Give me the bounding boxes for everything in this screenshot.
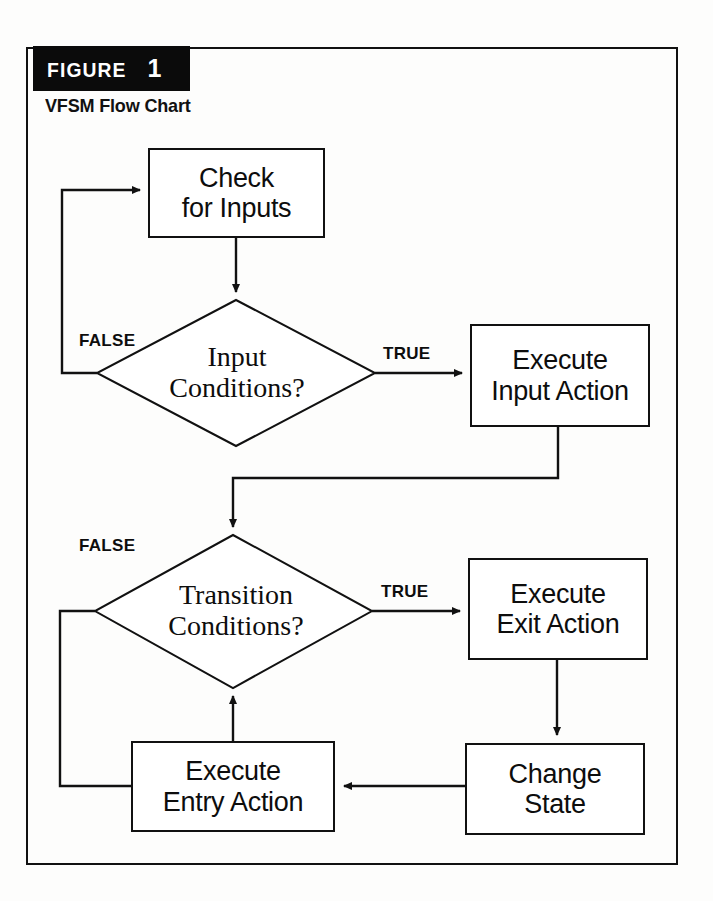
figure-panel: FIGURE1 VFSM Flow Chart Execute Input Ac… [0,0,713,901]
edge-transition-false-to-execute-entry [60,611,131,786]
decision-transition-conditions [95,535,372,688]
node-execute-exit-action-line1: Execute [510,579,605,609]
node-execute-exit-action: Execute Exit Action [468,558,648,660]
edge-label-false-transition: FALSE [79,536,135,556]
edge-label-false-input: FALSE [79,331,135,351]
node-change-state-line1: Change [509,759,602,789]
node-execute-entry-action: Execute Entry Action [131,741,335,832]
node-execute-input-action-line2: Input Action [491,376,629,406]
node-execute-input-action: Execute Input Action [470,324,650,427]
node-execute-exit-action-line2: Exit Action [497,609,620,639]
decision-input-conditions [97,300,375,446]
edge-execute-input-to-transition-decision [233,427,558,527]
edge-label-true-transition: TRUE [381,582,428,602]
edge-label-true-input: TRUE [383,344,430,364]
node-check-for-inputs-line1: Check [199,163,274,193]
node-execute-input-action-line1: Execute [512,345,607,375]
node-check-for-inputs-line2: for Inputs [182,193,292,223]
node-execute-entry-action-line1: Execute [185,756,280,786]
node-execute-entry-action-line2: Entry Action [163,787,303,817]
node-check-for-inputs: Check for Inputs [148,148,325,238]
node-change-state-line2: State [524,789,586,819]
node-change-state: Change State [465,743,645,835]
